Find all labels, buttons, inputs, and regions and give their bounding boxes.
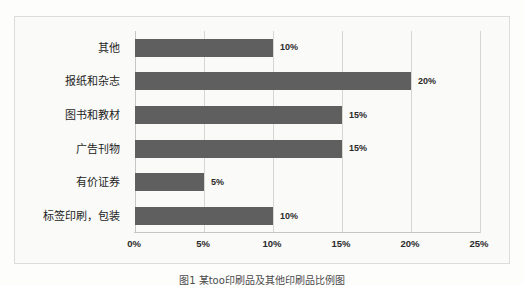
bar-series: 10%20%15%15%5%10% (135, 31, 480, 233)
category-label: 图书和教材 (65, 97, 120, 131)
bar-row[interactable]: 20% (135, 65, 480, 99)
bar-row[interactable]: 10% (135, 31, 480, 65)
bar-value-label: 15% (349, 111, 367, 120)
bar[interactable] (135, 39, 273, 57)
category-label: 报纸和杂志 (65, 64, 120, 98)
bar[interactable] (135, 173, 204, 191)
x-tick-label: 25% (469, 238, 488, 249)
bar[interactable] (135, 207, 273, 225)
category-label: 标签印刷，包装 (43, 198, 120, 232)
bar-value-label: 5% (211, 178, 224, 187)
x-tick-label: 10% (262, 238, 281, 249)
bar-value-label: 20% (418, 77, 436, 86)
x-tick-label: 5% (196, 238, 210, 249)
category-label: 广告刊物 (76, 131, 120, 165)
x-axis-tick-labels: 0%5%10%15%20%25% (134, 238, 480, 256)
bar[interactable] (135, 140, 342, 158)
bar-row[interactable]: 15% (135, 98, 480, 132)
x-tick-label: 20% (400, 238, 419, 249)
gridline-25% (480, 31, 481, 233)
figure-caption: 图1 某too印刷品及其他印刷品比例图 (0, 272, 524, 285)
bar-value-label: 15% (349, 144, 367, 153)
bar-row[interactable]: 5% (135, 166, 480, 200)
bar[interactable] (135, 106, 342, 124)
bar-row[interactable]: 10% (135, 199, 480, 233)
x-tick-label: 0% (127, 238, 141, 249)
x-axis-line (134, 232, 480, 233)
plot-area: 10%20%15%15%5%10% (135, 31, 480, 233)
category-label: 有价证券 (76, 165, 120, 199)
category-axis-labels: 其他报纸和杂志图书和教材广告刊物有价证券标签印刷，包装 (6, 30, 128, 232)
figure-container: 10%20%15%15%5%10% 其他报纸和杂志图书和教材广告刊物有价证券标签… (0, 0, 524, 285)
bar-row[interactable]: 15% (135, 132, 480, 166)
bar-value-label: 10% (280, 43, 298, 52)
x-tick-label: 15% (331, 238, 350, 249)
bar[interactable] (135, 72, 411, 90)
bar-value-label: 10% (280, 212, 298, 221)
category-label: 其他 (98, 30, 120, 64)
